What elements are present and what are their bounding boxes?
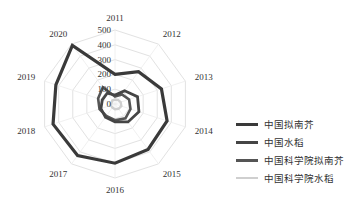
legend-label: 中国科学院拟南芥 — [264, 153, 344, 167]
radial-tick: 0 — [107, 99, 112, 109]
category-label: 2015 — [163, 169, 182, 179]
category-label: 2011 — [106, 13, 124, 23]
category-label: 2019 — [17, 72, 36, 82]
category-label: 2016 — [106, 185, 125, 195]
legend-item: 中国拟南芥 — [236, 116, 344, 132]
legend-swatch — [236, 177, 258, 179]
legend-label: 中国水稻 — [264, 135, 304, 149]
legend-swatch — [236, 141, 258, 144]
radial-tick: 400 — [98, 40, 112, 50]
category-label: 2014 — [195, 126, 214, 136]
legend: 中国拟南芥 中国水稻 中国科学院拟南芥 中国科学院水稻 — [236, 116, 344, 188]
legend-swatch — [236, 123, 258, 126]
radial-tick: 200 — [98, 69, 112, 79]
legend-label: 中国科学院水稻 — [264, 171, 334, 185]
legend-label: 中国拟南芥 — [264, 117, 314, 131]
radial-tick: 100 — [98, 84, 112, 94]
category-label: 2018 — [17, 126, 36, 136]
category-label: 2020 — [49, 29, 68, 39]
category-label: 2017 — [49, 169, 68, 179]
legend-item: 中国水稻 — [236, 134, 344, 150]
category-label: 2013 — [195, 72, 214, 82]
radial-tick: 300 — [98, 55, 112, 65]
category-label: 2012 — [163, 29, 181, 39]
legend-item: 中国科学院拟南芥 — [236, 152, 344, 168]
radar-chart: 0100200300400500 20112012201320142015201… — [0, 0, 230, 204]
radial-tick: 500 — [98, 25, 112, 35]
legend-item: 中国科学院水稻 — [236, 170, 344, 186]
legend-swatch — [236, 159, 258, 162]
